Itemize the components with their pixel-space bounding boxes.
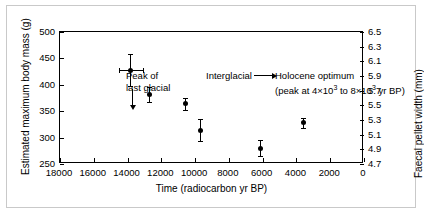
error-bar-cap-left — [119, 68, 120, 73]
y-tick-left — [60, 85, 64, 86]
y-tick-right — [360, 61, 364, 62]
y-tick-label-right: 6.3 — [368, 40, 408, 51]
data-point-marker — [301, 120, 306, 125]
x-tick-label: 12000 — [147, 167, 173, 178]
holo-b: to 8 — [337, 85, 356, 96]
error-bar-cap-bottom — [198, 141, 203, 142]
data-point-marker — [183, 101, 188, 106]
y-tick-label-left: 500 — [15, 26, 55, 37]
holo-a: (peak at 4 — [275, 85, 317, 96]
x-tick-label: 16000 — [80, 167, 106, 178]
holo-c: yr BP) — [376, 85, 405, 96]
y-tick-label-left: 450 — [15, 52, 55, 63]
x-tick — [263, 158, 264, 162]
x-tick — [128, 158, 129, 162]
x-tick — [161, 158, 162, 162]
y-tick-left — [60, 164, 64, 165]
x-tick-label: 4000 — [285, 167, 306, 178]
x-tick-label: 18000 — [46, 167, 72, 178]
x-tick-label: 10000 — [181, 167, 207, 178]
x-tick — [296, 158, 297, 162]
y-tick-right — [360, 149, 364, 150]
x-tick-label: 8000 — [217, 167, 238, 178]
x-tick — [364, 158, 365, 162]
y-tick-label-left: 250 — [15, 158, 55, 169]
annotation-peak-line1: Peak of — [126, 70, 170, 82]
x-tick-label: 14000 — [113, 167, 139, 178]
y-tick-label-right: 5.1 — [368, 128, 408, 139]
y-tick-label-right: 4.7 — [368, 158, 408, 169]
y-tick-left — [60, 111, 64, 112]
x-tick-label: 6000 — [251, 167, 272, 178]
error-bar-cap-top — [183, 98, 188, 99]
y-tick-left — [60, 58, 64, 59]
y-tick-label-right: 6.5 — [368, 26, 408, 37]
holo-x1: ×10 — [317, 85, 333, 96]
x-tick — [229, 158, 230, 162]
error-bar-cap-top — [258, 140, 263, 141]
x-tick — [195, 158, 196, 162]
y-tick-right — [360, 164, 364, 165]
y-tick-label-left: 300 — [15, 131, 55, 142]
y-tick-label-left: 350 — [15, 105, 55, 116]
y-tick-left — [60, 138, 64, 139]
error-bar-cap-bottom — [301, 128, 306, 129]
x-axis-title: Time (radiocarbon yr BP) — [0, 183, 423, 194]
error-bar-cap-bottom — [258, 156, 263, 157]
data-point-marker — [198, 128, 203, 133]
x-tick — [60, 158, 61, 162]
y-tick-right — [360, 32, 364, 33]
plot-area: Peak of last glacial Interglacial Holoce… — [59, 31, 363, 163]
error-bar-cap-top — [301, 118, 306, 119]
x-tick-label: 2000 — [319, 167, 340, 178]
x-tick — [94, 158, 95, 162]
y-axis-left-title: Estimated maximum body mass (g) — [20, 18, 31, 175]
annotation-interglacial-label: Interglacial — [206, 70, 252, 81]
annotation-holocene-line1: Holocene optimum — [275, 70, 405, 82]
annotation-interglacial: Interglacial — [206, 70, 252, 82]
holo-x2: ×10 — [356, 85, 372, 96]
y-tick-left — [60, 32, 64, 33]
error-bar-cap-top — [198, 119, 203, 120]
x-tick-label: 0 — [360, 167, 365, 178]
y-tick-label-right: 6.1 — [368, 55, 408, 66]
y-tick-label-right: 5.3 — [368, 114, 408, 125]
y-tick-label-right: 4.9 — [368, 143, 408, 154]
error-bar-cap-top — [128, 54, 133, 55]
right-arrow-icon — [254, 75, 272, 76]
y-tick-label-left: 400 — [15, 78, 55, 89]
annotation-holocene-optimum: Holocene optimum (peak at 4×103 to 8×103… — [275, 70, 405, 96]
error-bar-cap-bottom — [183, 110, 188, 111]
y-tick-right — [360, 120, 364, 121]
y-tick-right — [360, 135, 364, 136]
y-tick-right — [360, 47, 364, 48]
error-bar-cap-bottom — [147, 102, 152, 103]
y-tick-right — [360, 105, 364, 106]
y-axis-right-title: Faecal pellet width (mm) — [413, 69, 424, 178]
annotation-holocene-line2: (peak at 4×103 to 8×103 yr BP) — [275, 82, 405, 97]
data-point-marker — [258, 146, 263, 151]
down-arrow-icon — [132, 89, 133, 105]
x-tick — [330, 158, 331, 162]
y-tick-label-right: 5.5 — [368, 99, 408, 110]
data-point-marker — [147, 92, 152, 97]
